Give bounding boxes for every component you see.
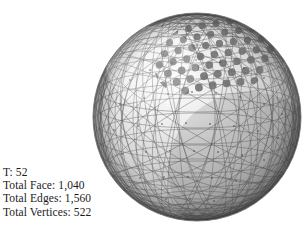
- figure-page: T: 52 Total Face: 1,040 Total Edges: 1,5…: [0, 0, 305, 234]
- stat-line-total-face: Total Face: 1,040: [3, 179, 153, 192]
- stat-line-t: T: 52: [3, 166, 153, 179]
- sphere-statistics: T: 52 Total Face: 1,040 Total Edges: 1,5…: [3, 166, 153, 219]
- stat-line-total-vertices: Total Vertices: 522: [3, 206, 153, 219]
- stat-line-total-edges: Total Edges: 1,560: [3, 192, 153, 205]
- sphere-highlight: [106, 26, 198, 106]
